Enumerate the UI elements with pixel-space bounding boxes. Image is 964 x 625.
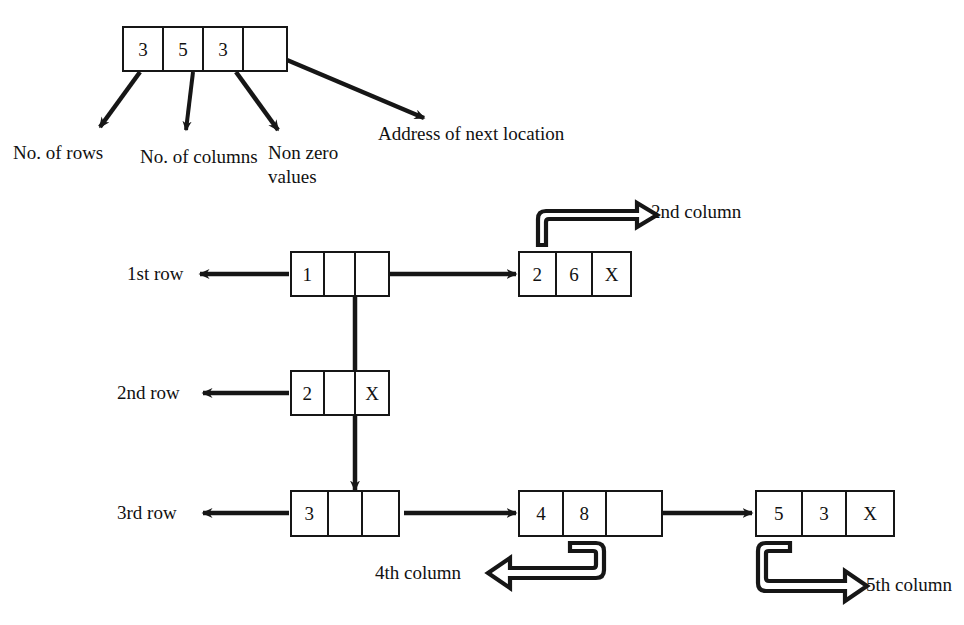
element-node-r1c2-cell-column: 2 bbox=[520, 253, 557, 295]
callout-arrow-2nd-column bbox=[538, 203, 657, 245]
element-node-r3c4-cell-next bbox=[607, 492, 661, 535]
element-node-r3c4: 4 8 bbox=[518, 490, 663, 537]
element-node-r3c5: 5 3 X bbox=[755, 490, 895, 537]
row-node-3: 3 bbox=[290, 490, 400, 537]
label-1st-row: 1st row bbox=[127, 263, 183, 285]
row-node-1: 1 bbox=[290, 251, 390, 297]
label-non-zero-values-line2: values bbox=[268, 166, 317, 188]
row-node-2: 2 X bbox=[290, 370, 390, 416]
row-node-2-cell-right-pointer: X bbox=[356, 372, 388, 414]
element-node-r1c2: 2 6 X bbox=[518, 251, 632, 297]
row-node-1-cell-right-pointer bbox=[356, 253, 388, 295]
element-node-r3c5-cell-column: 5 bbox=[757, 492, 803, 535]
arrow-to-non-zero-values bbox=[236, 72, 278, 130]
header-cell-columns: 5 bbox=[164, 28, 204, 70]
arrow-to-no-of-columns bbox=[186, 72, 193, 130]
element-node-r3c4-cell-value: 8 bbox=[564, 492, 607, 535]
header-cell-rows: 3 bbox=[124, 28, 164, 70]
element-node-r3c4-cell-column: 4 bbox=[520, 492, 564, 535]
element-node-r1c2-cell-next: X bbox=[593, 253, 630, 295]
sparse-matrix-diagram: 3 5 3 No. of rows No. of columns Non zer… bbox=[0, 0, 964, 625]
arrow-to-address-of-next-location bbox=[287, 60, 424, 118]
header-cell-next-pointer bbox=[244, 28, 286, 70]
label-2nd-row: 2nd row bbox=[117, 382, 180, 404]
row-node-3-cell-rownum: 3 bbox=[292, 492, 329, 535]
header-node: 3 5 3 bbox=[122, 26, 288, 72]
label-4th-column: 4th column bbox=[375, 562, 461, 584]
element-node-r3c5-cell-value: 3 bbox=[803, 492, 848, 535]
row-node-2-cell-down-pointer bbox=[325, 372, 357, 414]
header-cell-nonzero: 3 bbox=[204, 28, 244, 70]
row-node-3-cell-right-pointer bbox=[363, 492, 398, 535]
element-node-r3c5-cell-next: X bbox=[847, 492, 893, 535]
callout-arrow-4th-column bbox=[488, 543, 604, 588]
label-2nd-column: 2nd column bbox=[651, 201, 741, 223]
label-non-zero-values-line1: Non zero bbox=[268, 142, 338, 164]
row-node-3-cell-down-pointer bbox=[329, 492, 364, 535]
row-node-1-cell-rownum: 1 bbox=[292, 253, 325, 295]
label-address-of-next-location: Address of next location bbox=[378, 123, 564, 145]
element-node-r1c2-cell-value: 6 bbox=[557, 253, 594, 295]
row-node-2-cell-rownum: 2 bbox=[292, 372, 325, 414]
arrow-to-no-of-rows bbox=[100, 72, 140, 127]
label-5th-column: 5th column bbox=[866, 574, 952, 596]
label-no-of-columns: No. of columns bbox=[140, 146, 258, 168]
row-node-1-cell-down-pointer bbox=[325, 253, 357, 295]
callout-arrow-5th-column bbox=[758, 543, 867, 601]
label-3rd-row: 3rd row bbox=[117, 502, 177, 524]
label-no-of-rows: No. of rows bbox=[13, 142, 103, 164]
